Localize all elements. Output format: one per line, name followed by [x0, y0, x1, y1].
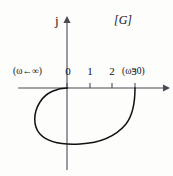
axis-tick-marks [67, 83, 135, 88]
nyquist-plot-figure: j [G] 0 1 2 3 (ω←∞) (ω=0) [0, 0, 173, 176]
imaginary-axis-label: j [55, 14, 59, 27]
imaginary-axis-arrowhead [63, 16, 70, 23]
imaginary-axis [63, 16, 70, 170]
omega-infinity-annotation: (ω←∞) [13, 67, 42, 77]
tick-label-1: 1 [84, 65, 96, 77]
omega-zero-annotation: (ω=0) [122, 67, 145, 77]
tick-label-0: 0 [62, 65, 74, 77]
real-axis [18, 84, 170, 91]
plane-label: [G] [114, 14, 132, 26]
plot-canvas [0, 0, 173, 176]
nyquist-locus-curve [35, 88, 135, 144]
tick-label-2: 2 [106, 65, 118, 77]
real-axis-arrowhead [163, 84, 170, 91]
